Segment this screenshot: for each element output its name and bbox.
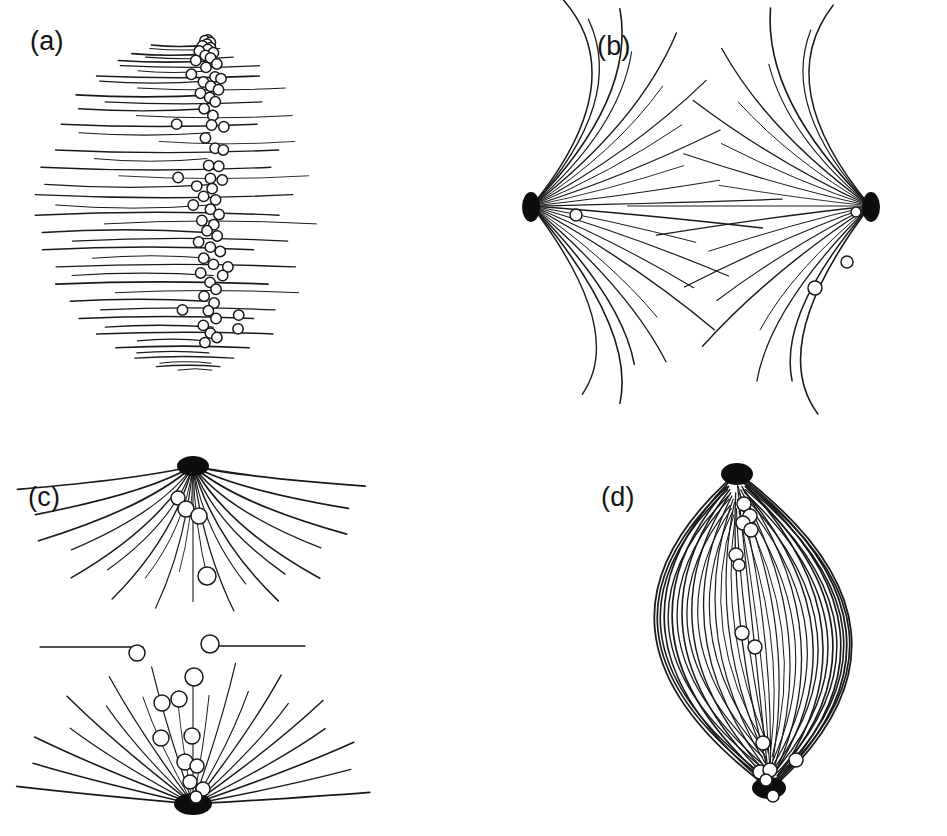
trajectory-curve (532, 166, 684, 206)
trajectory-marker (808, 281, 822, 295)
trajectory-marker (198, 567, 216, 585)
trajectory-curve (532, 0, 592, 206)
trajectory-marker (185, 668, 203, 686)
panel-label-a: (a) (30, 28, 64, 55)
trajectory-marker (198, 191, 208, 201)
trajectory-curve (532, 206, 622, 403)
trajectory-marker (208, 110, 218, 120)
trajectory-marker (210, 195, 220, 205)
sphere-diagram-d (474, 418, 947, 836)
trajectory-marker (219, 122, 229, 132)
trajectory-curve (135, 357, 234, 359)
trajectory-marker (767, 790, 779, 802)
panel-label-b: (b) (597, 33, 631, 60)
trajectory-curve (193, 466, 349, 508)
trajectory-curve (56, 264, 295, 267)
trajectory-marker (207, 183, 217, 193)
panel-label-d: (d) (601, 484, 635, 511)
trajectory-marker (206, 120, 216, 130)
trajectory-marker (789, 753, 803, 767)
trajectory-marker (218, 145, 228, 155)
trajectory-curve (72, 273, 213, 275)
trajectory-marker (756, 736, 770, 750)
trajectory-curve (193, 466, 365, 486)
panel-c (0, 418, 473, 836)
trajectory-marker (202, 226, 212, 236)
trajectory-marker (760, 774, 772, 786)
figure-root: (a) (b) (c) (d) (0, 0, 947, 836)
trajectory-marker (215, 246, 225, 256)
trajectory-marker (129, 645, 145, 661)
trajectory-curve (94, 159, 207, 162)
trajectory-curve (193, 701, 323, 805)
trajectory-curve (116, 346, 249, 348)
trajectory-marker (183, 775, 197, 789)
trajectory-curve (178, 369, 212, 370)
trajectory-marker (201, 62, 211, 72)
trajectory-curve (137, 339, 207, 341)
trajectory-curve (532, 80, 706, 206)
trajectory-marker (190, 759, 204, 773)
trajectory-marker (177, 305, 187, 315)
trajectory-curve (137, 351, 209, 353)
trajectory-marker (211, 284, 221, 294)
trajectory-marker (214, 209, 224, 219)
trajectory-curve (35, 195, 293, 198)
trajectory-curve (79, 109, 207, 111)
trajectory-marker (210, 97, 220, 107)
trajectory-curve (120, 66, 259, 68)
trajectory-curve (79, 317, 253, 319)
trajectory-marker (841, 256, 853, 268)
trajectory-marker (744, 523, 758, 537)
panel-d (474, 418, 947, 836)
sphere-diagram-a (0, 0, 473, 418)
trajectory-marker (213, 85, 223, 95)
panel-a: (a) (0, 0, 473, 418)
trajectory-marker (733, 559, 745, 571)
trajectory-curve (76, 95, 213, 97)
trajectory-marker (205, 242, 215, 252)
trajectory-marker (735, 626, 749, 640)
trajectory-curve (709, 206, 870, 251)
trajectory-marker (570, 209, 582, 221)
trajectory-curve (79, 133, 210, 135)
trajectory-marker (171, 119, 181, 129)
trajectory-curve (532, 199, 782, 206)
panel-label-c: (c) (28, 484, 60, 511)
trajectory-curve (71, 466, 193, 550)
trajectory-marker (199, 103, 209, 113)
panel-b (474, 0, 947, 418)
trajectory-curve (193, 466, 320, 578)
trajectory-marker (184, 728, 200, 744)
sphere-diagram-c (0, 418, 473, 836)
trajectory-marker (200, 133, 210, 143)
trajectory-curve (97, 332, 273, 334)
trajectory-curve (70, 299, 207, 301)
trajectory-marker (190, 791, 202, 803)
trajectory-curve (56, 150, 279, 153)
trajectory-marker (197, 215, 207, 225)
trajectory-curve (809, 5, 870, 206)
trajectory-marker (192, 181, 202, 191)
trajectory-marker (195, 268, 205, 278)
trajectory-curve (56, 205, 211, 208)
trajectory-marker (208, 259, 218, 269)
pole-blob (177, 456, 209, 476)
trajectory-curve (93, 256, 211, 259)
trajectory-marker (205, 173, 215, 183)
trajectory-marker (212, 59, 222, 69)
trajectory-marker (214, 161, 224, 171)
trajectory-curve (532, 206, 635, 364)
trajectory-curve (193, 466, 321, 548)
trajectory-marker (212, 231, 222, 241)
trajectory-marker (154, 695, 170, 711)
trajectory-curve (146, 57, 234, 59)
trajectory-marker (233, 324, 243, 334)
trajectory-curve (41, 167, 271, 170)
trajectory-marker (200, 337, 210, 347)
trajectory-marker (211, 313, 221, 323)
trajectory-curve (42, 230, 207, 233)
trajectory-marker (199, 291, 209, 301)
trajectory-curve (105, 325, 213, 327)
trajectory-marker (191, 508, 207, 524)
